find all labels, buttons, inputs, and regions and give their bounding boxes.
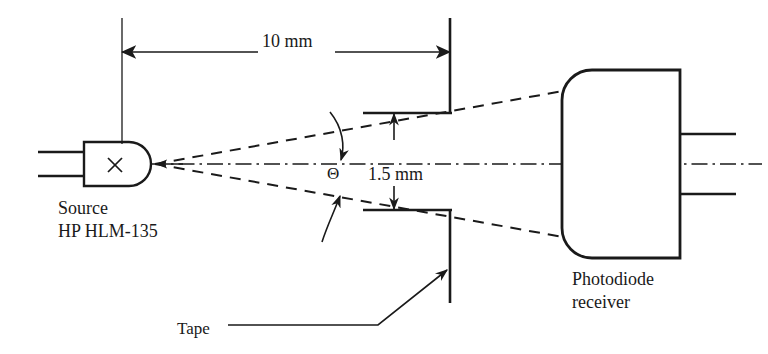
tape-leader (228, 270, 447, 325)
source-label-line2: HP HLM-135 (58, 221, 158, 241)
aperture-gap-dimension-label: 1.5 mm (368, 163, 423, 186)
diagram-canvas: SourceHP HLM-135 Photodiodereceiver 10 m… (0, 0, 768, 354)
source-label-line1: Source (58, 198, 108, 218)
separation-dimension-label: 10 mm (262, 30, 313, 53)
receiver-label: Photodiodereceiver (572, 268, 654, 314)
photodiode-receiver (562, 70, 736, 258)
theta-angle-label: Θ (327, 163, 339, 185)
source-led (38, 142, 151, 186)
beam-ray-upper (155, 88, 580, 164)
theta-arrow-lower (322, 196, 340, 242)
tape-aperture-upper (363, 18, 452, 114)
source-body (84, 142, 151, 186)
receiver-label-line2: receiver (572, 292, 630, 312)
theta-arrow-upper (330, 112, 343, 160)
tape-leader-line (228, 270, 447, 325)
receiver-label-line1: Photodiode (572, 269, 654, 289)
receiver-body (562, 70, 680, 258)
tape-label: Tape (177, 318, 210, 340)
tape-aperture-lower (363, 209, 452, 303)
source-label: SourceHP HLM-135 (58, 197, 158, 243)
